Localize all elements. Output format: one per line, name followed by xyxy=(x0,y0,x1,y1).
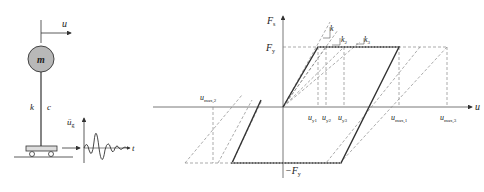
max-disp-label-1: umax,1 xyxy=(391,113,408,124)
max-disp-label-3: umax,3 xyxy=(440,113,457,124)
ground-motion-wave-icon xyxy=(84,133,127,159)
stiffness-label: k xyxy=(30,102,35,112)
displacement-label: u xyxy=(62,18,67,29)
yield-disp-label-2: uy2 xyxy=(322,113,332,123)
wheel-icon xyxy=(30,152,35,157)
time-label: t xyxy=(132,143,135,153)
stiffness-label-k3: k3 xyxy=(364,35,371,45)
force-axis-label: Fs xyxy=(266,15,276,27)
stiffness-label-k2: k2 xyxy=(341,35,348,45)
stiffness-label-k1: k xyxy=(330,24,334,33)
hysteresis-loop xyxy=(232,47,399,163)
hysteresis-diagram: Fs u Fy −Fy xyxy=(153,15,480,178)
displacement-axis-label: u xyxy=(475,101,480,112)
wheel-icon xyxy=(49,152,54,157)
neg-yield-force-label: −Fy xyxy=(285,165,301,177)
yield-force-label: Fy xyxy=(265,42,275,54)
figure: u m k c üg t Fs u Fy −Fy xyxy=(0,0,484,192)
max-disp-label-2: umax,2 xyxy=(200,93,217,104)
mass-label: m xyxy=(37,54,45,65)
cart-base xyxy=(26,146,57,151)
damping-label: c xyxy=(47,102,51,112)
dashed-reference-lines xyxy=(185,22,447,163)
yield-disp-label-1: uy1 xyxy=(308,113,318,123)
yield-disp-label-3: uy3 xyxy=(338,113,348,123)
sdof-model: u m k c üg t xyxy=(14,18,135,163)
ground-accel-label: üg xyxy=(67,117,75,128)
